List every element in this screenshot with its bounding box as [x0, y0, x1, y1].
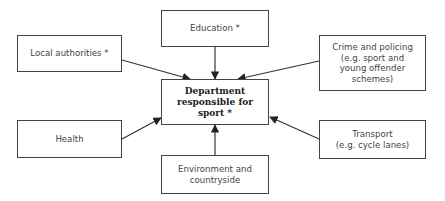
- node-education: Education *: [161, 10, 269, 47]
- node-local-authorities: Local authorities *: [17, 35, 122, 72]
- node-environment: Environment and countryside: [161, 155, 269, 194]
- node-label: Transport (e.g. cycle lanes): [336, 129, 409, 150]
- arrow-local-authorities-to-center: [122, 60, 190, 79]
- node-label: Environment and countryside: [178, 164, 252, 185]
- arrow-health-to-center: [122, 118, 161, 139]
- arrow-crime-to-center: [238, 61, 319, 79]
- node-label: Education *: [190, 23, 240, 34]
- arrow-transport-to-center: [270, 117, 319, 139]
- node-transport: Transport (e.g. cycle lanes): [319, 120, 426, 159]
- node-health: Health: [17, 120, 122, 158]
- node-crime-policing: Crime and policing (e.g. sport and young…: [319, 35, 426, 91]
- node-label: Crime and policing (e.g. sport and young…: [332, 42, 413, 84]
- node-label: Local authorities *: [30, 48, 108, 59]
- node-label: Health: [55, 134, 83, 145]
- node-department-sport: Department responsible for sport *: [161, 79, 269, 125]
- center-label: Department responsible for sport *: [177, 86, 253, 119]
